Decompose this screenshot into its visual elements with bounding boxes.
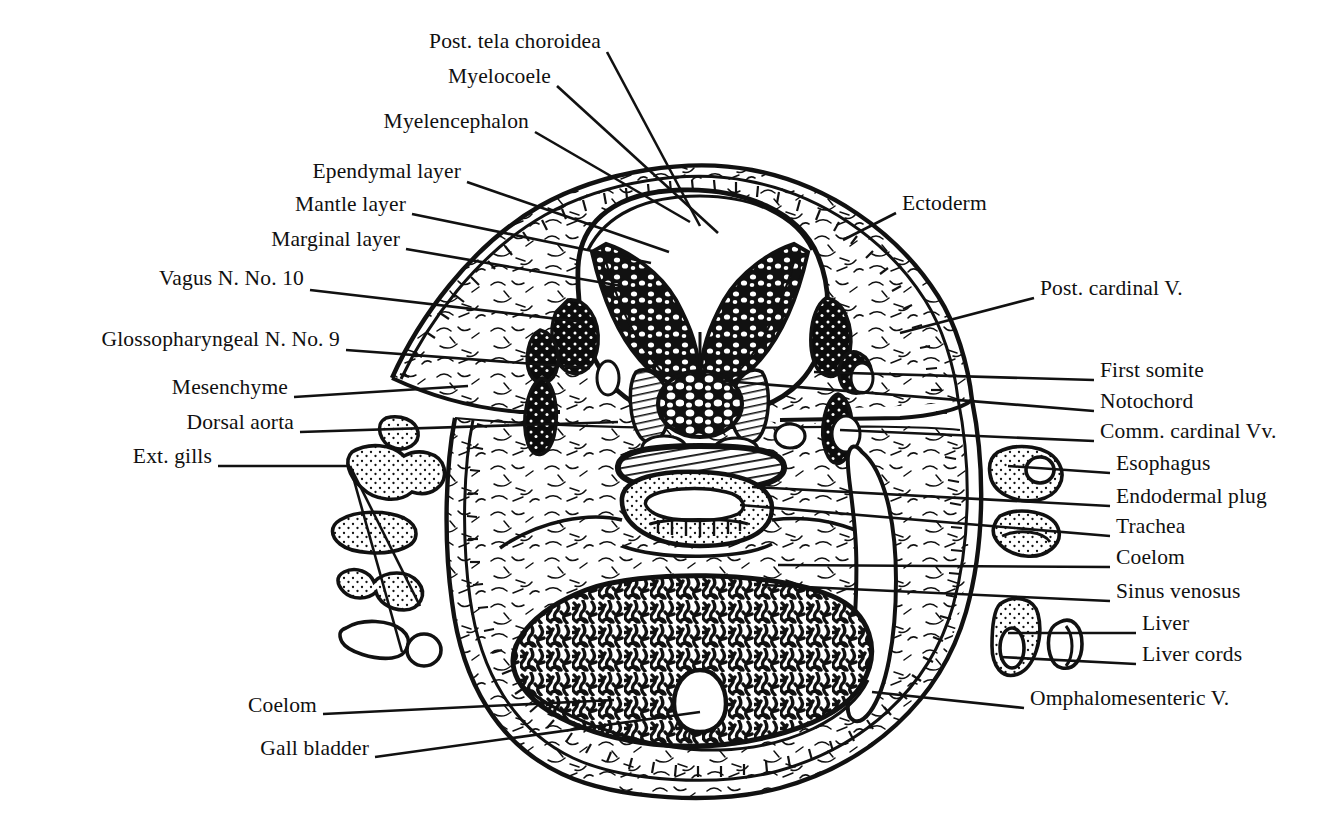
label-liver-cords: Liver cords <box>1142 644 1242 666</box>
label-omphalomesenteric-v: Omphalomesenteric V. <box>1030 688 1229 710</box>
label-ectoderm: Ectoderm <box>902 193 987 215</box>
label-ependymal-layer: Ependymal layer <box>0 161 461 183</box>
right-side-organ-blobs <box>989 447 1082 676</box>
label-dorsal-aorta: Dorsal aorta <box>0 412 294 434</box>
label-coelom-left: Coelom <box>0 695 317 717</box>
label-myelencephalon: Myelencephalon <box>0 111 529 133</box>
label-trachea: Trachea <box>1116 516 1186 538</box>
embryo-cross-section-figure: Post. tela choroideaMyelocoeleMyelenceph… <box>0 0 1323 836</box>
label-notochord: Notochord <box>1100 391 1193 413</box>
label-post-cardinal-v: Post. cardinal V. <box>1040 278 1183 300</box>
trachea-blob <box>993 511 1059 556</box>
label-first-somite: First somite <box>1100 360 1204 382</box>
label-sinus-venosus: Sinus venosus <box>1116 581 1240 603</box>
label-mantle-layer: Mantle layer <box>0 194 406 216</box>
label-esophagus: Esophagus <box>1116 453 1211 475</box>
label-comm-cardinal-vv: Comm. cardinal Vv. <box>1100 421 1276 443</box>
label-gall-bladder: Gall bladder <box>0 738 369 760</box>
label-glossopharyngeal-n-no-9: Glossopharyngeal N. No. 9 <box>0 329 340 351</box>
label-ext-gills: Ext. gills <box>0 446 212 468</box>
label-marginal-layer: Marginal layer <box>0 229 400 251</box>
label-liver: Liver <box>1142 613 1189 635</box>
label-myelocoele: Myelocoele <box>0 66 551 88</box>
label-mesenchyme: Mesenchyme <box>0 377 288 399</box>
label-endodermal-plug: Endodermal plug <box>1116 486 1267 508</box>
label-vagus-n-no-10: Vagus N. No. 10 <box>0 268 304 290</box>
endodermal-plug-lumen <box>645 489 743 521</box>
label-post-tela-choroidea: Post. tela choroidea <box>0 31 601 53</box>
gall-bladder-lumen <box>674 670 726 732</box>
label-coelom-right: Coelom <box>1116 547 1185 569</box>
foregut-complex <box>622 472 772 546</box>
